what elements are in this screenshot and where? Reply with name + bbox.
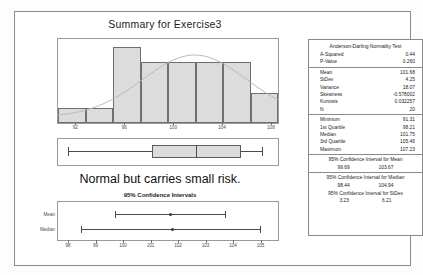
- moment-row: Variance18.07: [309, 84, 422, 91]
- stat-value: -0.578002: [393, 91, 415, 98]
- axis-tick-label: 103: [202, 243, 210, 248]
- moment-row: Kurtosis0.032257: [309, 98, 422, 105]
- quantile-row: 1st Quartile98.21: [309, 124, 422, 131]
- stat-label: Median: [320, 131, 336, 138]
- axis-tick-label: 99: [93, 243, 98, 248]
- annotation-text: Normal but carries small risk.: [15, 172, 305, 186]
- stat-label: N: [320, 106, 324, 113]
- stat-value: 0.260: [403, 58, 415, 65]
- axis-tick-label: 96: [122, 125, 127, 130]
- ci-endpoint-cap: [225, 211, 226, 218]
- page-title: Summary for Exercise3: [15, 18, 315, 30]
- ci-lower-value: 99.69: [337, 164, 349, 172]
- moment-row: N20: [309, 106, 422, 113]
- statistics-panel: Anderson-Darling Normality Test A-Square…: [308, 39, 423, 236]
- axis-tick-label: 101: [147, 243, 155, 248]
- axis-tick-label: 108: [267, 125, 275, 130]
- stat-label: Minimum: [320, 116, 340, 123]
- divider: [309, 67, 422, 68]
- boxplot-whisker: [241, 151, 263, 152]
- ci-block-values: 98.44104.94: [309, 182, 422, 190]
- moment-row: StDev4.25: [309, 76, 422, 83]
- divider: [309, 154, 422, 155]
- ci-block-header: 95% Confidence Interval for StDev: [309, 190, 422, 198]
- quantile-row: Minimum91.31: [309, 116, 422, 123]
- stat-label: Mean: [320, 69, 332, 76]
- stat-label: StDev: [320, 76, 333, 83]
- stat-label: Variance: [320, 84, 339, 91]
- report-page: Summary for Exercise3 9296100104108 Norm…: [0, 0, 423, 275]
- stat-label: Maximum: [320, 146, 341, 153]
- stat-value: 98.21: [403, 124, 415, 131]
- stat-label: 3rd Quartile: [320, 138, 346, 145]
- boxplot-box: [152, 145, 241, 158]
- stat-label: P-Value: [320, 58, 337, 65]
- ci-upper-value: 6.21: [382, 197, 392, 205]
- ci-center-point: [171, 228, 174, 231]
- ci-endpoint-cap: [81, 226, 82, 233]
- normal-curve: [58, 39, 278, 123]
- ci-block-header: 95% Confidence Interval for Median: [309, 174, 422, 182]
- axis-tick-label: 104: [229, 243, 237, 248]
- ci-block-values: 99.69103.67: [309, 164, 422, 172]
- axis-tick-label: 98: [65, 243, 70, 248]
- stat-value: 107.23: [400, 146, 415, 153]
- stat-label: A-Squared: [320, 51, 343, 58]
- axis-tick-label: 92: [73, 125, 78, 130]
- moment-rows: Mean101.68StDev4.25Variance18.07Skewness…: [309, 69, 422, 113]
- quantile-row: Maximum107.23: [309, 146, 422, 153]
- boxplot-whisker-cap: [262, 147, 263, 156]
- axis-tick-label: 102: [174, 243, 182, 248]
- axis-tick-label: 100: [169, 125, 177, 130]
- stat-value: 101.75: [400, 131, 415, 138]
- stat-label: 1st Quartile: [320, 124, 345, 131]
- stat-value: 91.31: [403, 116, 415, 123]
- ci-endpoint-cap: [115, 211, 116, 218]
- stat-value: 0.032257: [395, 98, 415, 105]
- anderson-darling-header: Anderson-Darling Normality Test: [309, 40, 422, 51]
- axis-tick-label: 100: [119, 243, 127, 248]
- stat-value: 101.68: [400, 69, 415, 76]
- stat-value: 105.46: [400, 138, 415, 145]
- ci-upper-value: 103.67: [379, 164, 394, 172]
- report-frame: Summary for Exercise3 9296100104108 Norm…: [14, 11, 411, 266]
- confidence-interval-blocks: 95% Confidence Interval for Mean99.69103…: [309, 156, 422, 205]
- anderson-darling-row: P-Value0.260: [309, 58, 422, 65]
- boxplot-whisker: [68, 151, 152, 152]
- ci-plot-title: 95% Confidence Intervals: [15, 192, 305, 198]
- ci-endpoint-cap: [260, 226, 261, 233]
- boxplot-whisker-cap: [68, 147, 69, 156]
- divider: [309, 172, 422, 173]
- stat-value: 4.25: [405, 76, 415, 83]
- axis-tick-label: 104: [218, 125, 226, 130]
- ci-center-point: [169, 213, 172, 216]
- ci-upper-value: 104.94: [379, 182, 394, 190]
- moment-row: Skewness-0.578002: [309, 91, 422, 98]
- boxplot-plot: [57, 138, 279, 166]
- quantile-rows: Minimum91.311st Quartile98.21Median101.7…: [309, 116, 422, 153]
- ci-plot: [57, 201, 279, 241]
- stat-value: 18.07: [403, 84, 415, 91]
- moment-row: Mean101.68: [309, 69, 422, 76]
- stat-value: 20: [410, 106, 415, 113]
- ci-row-label: Mean: [21, 212, 55, 217]
- stat-label: Kurtosis: [320, 98, 338, 105]
- axis-tick-label: 105: [257, 243, 265, 248]
- quantile-row: 3rd Quartile105.46: [309, 138, 422, 145]
- ci-row-label: Median: [21, 227, 55, 232]
- ci-block-values: 3.236.21: [309, 197, 422, 205]
- divider: [309, 114, 422, 115]
- ci-lower-value: 3.23: [339, 197, 349, 205]
- histogram-plot: [57, 38, 279, 124]
- stat-value: 0.44: [405, 51, 415, 58]
- ci-lower-value: 98.44: [337, 182, 349, 190]
- ci-x-axis: 9899100101102103104105: [57, 240, 277, 252]
- anderson-darling-rows: A-Squared0.44P-Value0.260: [309, 51, 422, 66]
- quantile-row: Median101.75: [309, 131, 422, 138]
- boxplot-median-line: [196, 145, 197, 158]
- stat-label: Skewness: [320, 91, 342, 98]
- ci-block-header: 95% Confidence Interval for Mean: [309, 156, 422, 164]
- histogram-x-axis: 9296100104108: [57, 122, 277, 135]
- anderson-darling-row: A-Squared0.44: [309, 51, 422, 58]
